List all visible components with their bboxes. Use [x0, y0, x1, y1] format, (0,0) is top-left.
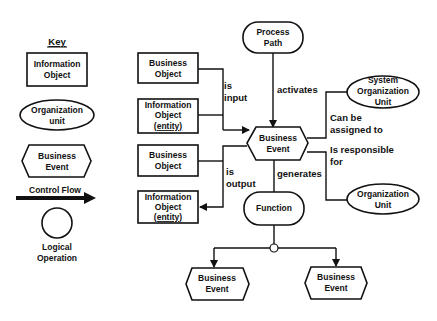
key-legend: Key Information Object Organization unit… [16, 36, 96, 263]
svg-text:Unit: Unit [375, 200, 392, 210]
epc-diagram: Key Information Object Organization unit… [0, 0, 437, 321]
node-function: Function [244, 192, 304, 225]
svg-text:Object: Object [155, 110, 182, 120]
svg-text:Object: Object [155, 161, 182, 171]
svg-text:System: System [368, 75, 399, 85]
svg-text:Object: Object [44, 70, 71, 80]
key-control-flow: Control Flow [16, 185, 96, 204]
arrow-right-icon [84, 192, 96, 204]
svg-text:Logical: Logical [42, 242, 72, 252]
svg-text:Organization: Organization [357, 86, 409, 96]
node-business-event-right: Business Event [305, 267, 367, 299]
label-can-be-assigned-to: Can be [330, 112, 362, 123]
svg-text:Business: Business [198, 273, 236, 283]
svg-text:Object: Object [155, 69, 182, 79]
node-system-org-unit: System Organization Unit [347, 75, 419, 108]
label-is-output: is [226, 166, 234, 177]
svg-text:Business: Business [259, 133, 297, 143]
node-business-event-center: Business Event [247, 127, 308, 160]
svg-text:Information: Information [34, 59, 81, 69]
svg-text:Operation: Operation [37, 253, 77, 263]
svg-text:Information: Information [145, 192, 192, 202]
svg-text:unit: unit [49, 116, 65, 126]
svg-text:Control Flow: Control Flow [29, 185, 81, 195]
key-logical-operation: Logical Operation [37, 208, 77, 263]
svg-text:Event: Event [324, 283, 347, 293]
key-business-event: Business Event [22, 145, 91, 177]
svg-text:Object: Object [155, 202, 182, 212]
svg-text:Event: Event [205, 284, 228, 294]
svg-text:Unit: Unit [375, 97, 392, 107]
label-activates: activates [277, 84, 318, 95]
node-information-object-output: Information Object (entity) [138, 191, 198, 223]
svg-text:Business: Business [38, 151, 76, 161]
svg-text:for: for [330, 156, 343, 167]
svg-text:output: output [226, 178, 256, 189]
svg-text:Information: Information [145, 100, 192, 110]
svg-text:Function: Function [256, 203, 292, 213]
logical-operation-node [270, 244, 278, 252]
key-information-object: Information Object [27, 53, 87, 86]
node-process-path: Process Path [243, 22, 303, 53]
svg-text:input: input [224, 92, 248, 103]
node-business-object-output: Business Object [138, 145, 198, 176]
svg-text:Business: Business [149, 58, 187, 68]
node-information-object-input: Information Object (entity) [138, 99, 198, 133]
svg-text:assigned to: assigned to [330, 124, 383, 135]
svg-text:Business: Business [317, 272, 355, 282]
label-is-input: is [224, 80, 232, 91]
node-org-unit: Organization Unit [347, 184, 419, 214]
svg-text:(entity): (entity) [154, 212, 183, 222]
label-is-responsible-for: Is responsible [330, 144, 394, 155]
node-business-object-input: Business Object [138, 53, 198, 83]
svg-text:Organization: Organization [31, 105, 83, 115]
svg-text:Process: Process [256, 27, 289, 37]
key-organization-unit: Organization unit [20, 100, 94, 130]
node-business-event-left: Business Event [186, 268, 249, 300]
svg-text:Event: Event [266, 144, 289, 154]
svg-text:Organization: Organization [357, 189, 409, 199]
svg-text:(entity): (entity) [154, 121, 183, 131]
key-title: Key [48, 36, 66, 47]
svg-text:Business: Business [149, 150, 187, 160]
svg-text:Event: Event [45, 162, 68, 172]
label-generates: generates [277, 168, 322, 179]
svg-text:Path: Path [264, 38, 282, 48]
